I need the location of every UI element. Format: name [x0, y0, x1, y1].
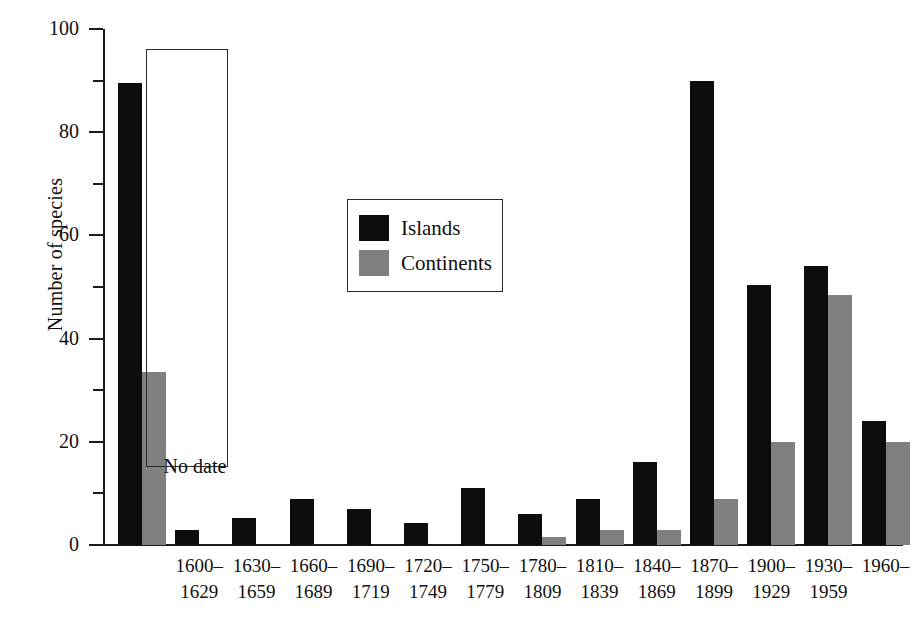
y-tick-major-100 — [89, 28, 103, 30]
bar-group — [862, 29, 910, 545]
x-axis-label: 1960– — [850, 553, 917, 579]
bar-islands — [175, 530, 199, 545]
bar-chart: Number of species 020406080100 No date I… — [0, 0, 917, 630]
y-tick-label-80: 80 — [9, 121, 79, 141]
y-tick-major-40 — [89, 338, 103, 340]
bar-islands — [118, 83, 142, 545]
bar-islands — [633, 462, 657, 545]
legend-swatch-continents-icon — [359, 250, 389, 276]
bar-islands — [747, 285, 771, 545]
bar-group — [518, 29, 566, 545]
bar-continents — [828, 295, 852, 545]
legend-entry-islands: Islands — [359, 213, 461, 243]
bar-islands — [862, 421, 886, 545]
bar-islands — [347, 509, 371, 545]
no-date-box — [146, 49, 228, 467]
bar-continents — [600, 530, 624, 545]
x-axis-label-line1: 1960– — [850, 553, 917, 579]
bar-continents — [771, 442, 795, 545]
bar-continents — [657, 530, 681, 545]
bar-continents — [542, 537, 566, 545]
legend: Islands Continents — [347, 199, 503, 292]
y-tick-major-0 — [89, 544, 103, 546]
legend-swatch-islands-icon — [359, 215, 389, 241]
bar-islands — [290, 499, 314, 545]
x-axis-label-line2: 1959 — [792, 579, 864, 605]
bar-islands — [576, 499, 600, 545]
bar-group — [576, 29, 624, 545]
bar-group — [290, 29, 338, 545]
y-tick-label-20: 20 — [9, 431, 79, 451]
legend-label-islands: Islands — [401, 218, 461, 239]
bar-islands — [404, 523, 428, 545]
bar-group — [690, 29, 738, 545]
bar-islands — [690, 81, 714, 545]
bar-islands — [461, 488, 485, 545]
y-tick-label-0: 0 — [9, 534, 79, 554]
y-tick-minor-50 — [93, 286, 103, 288]
y-tick-minor-90 — [93, 80, 103, 82]
y-tick-label-100: 100 — [9, 18, 79, 38]
y-tick-minor-30 — [93, 389, 103, 391]
bar-group — [804, 29, 852, 545]
y-axis-title: Number of species — [44, 105, 67, 405]
y-tick-minor-70 — [93, 183, 103, 185]
bar-islands — [804, 266, 828, 545]
y-tick-major-80 — [89, 131, 103, 133]
bar-group — [747, 29, 795, 545]
bar-islands — [518, 514, 542, 545]
legend-label-continents: Continents — [401, 253, 492, 274]
y-tick-major-20 — [89, 441, 103, 443]
bar-continents — [714, 499, 738, 545]
legend-entry-continents: Continents — [359, 248, 492, 278]
bar-continents — [886, 442, 910, 545]
no-date-label: No date — [140, 455, 250, 478]
y-tick-major-60 — [89, 234, 103, 236]
y-tick-label-40: 40 — [9, 328, 79, 348]
bar-group — [633, 29, 681, 545]
y-tick-minor-10 — [93, 492, 103, 494]
y-tick-label-60: 60 — [9, 224, 79, 244]
bar-islands — [232, 518, 256, 545]
